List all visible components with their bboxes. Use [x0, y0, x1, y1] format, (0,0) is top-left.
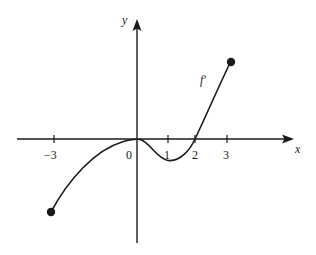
right-endpoint-dot: [227, 58, 235, 66]
tick-label-1: 1: [164, 148, 170, 162]
left-endpoint-dot: [47, 208, 55, 216]
tick-label-3: 3: [223, 148, 229, 162]
curve-label: f′: [200, 73, 206, 87]
tick-label-0: 0: [126, 148, 132, 162]
y-axis-label: y: [121, 13, 128, 27]
x-axis-label: x: [294, 142, 301, 156]
tick-label-neg3: −3: [44, 148, 57, 162]
graph-canvas: y x f′ −3 0 1 2 3: [0, 0, 316, 255]
tick-label-2: 2: [192, 148, 198, 162]
